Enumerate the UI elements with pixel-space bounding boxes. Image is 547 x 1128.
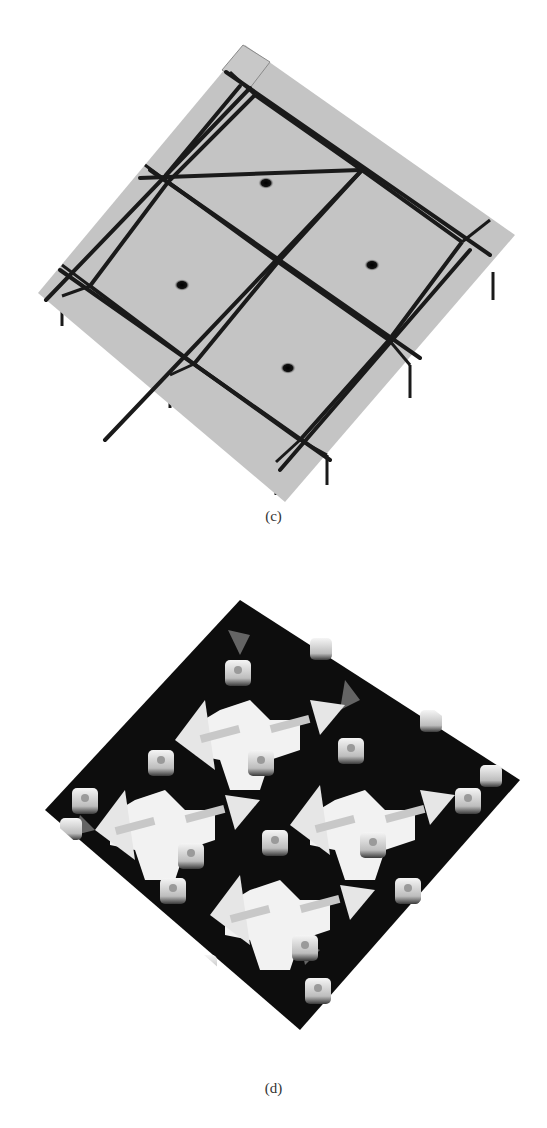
figure-panel-c: (c)	[0, 0, 547, 560]
figure-panel-d: (d)	[0, 560, 547, 1128]
caption-d: (d)	[0, 1080, 547, 1097]
surface-render-d	[0, 560, 547, 1080]
surface-render-c	[0, 0, 547, 520]
caption-c: (c)	[0, 508, 547, 525]
